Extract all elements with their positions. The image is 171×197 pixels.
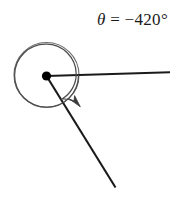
angle-measure-label: θ = −420° bbox=[76, 9, 168, 30]
equals-sign: = bbox=[110, 10, 120, 29]
terminal-side-ray bbox=[47, 76, 116, 188]
vertex-point bbox=[42, 71, 51, 80]
theta-symbol: θ bbox=[97, 10, 106, 29]
angle-diagram-figure: θ = −420° bbox=[0, 0, 170, 197]
rotation-arrowhead bbox=[70, 96, 81, 107]
angle-value: −420° bbox=[125, 10, 168, 29]
initial-side-ray bbox=[47, 72, 171, 76]
